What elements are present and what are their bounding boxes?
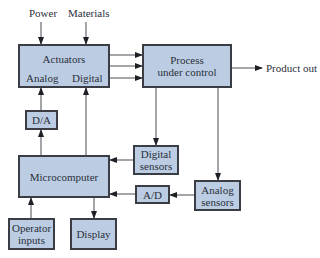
digital-sensors-line1: Digital — [141, 148, 172, 160]
actuators-digital-label: Digital — [72, 72, 103, 84]
actuators-box: Actuators Analog Digital — [18, 44, 110, 88]
analog-sensors-line1: Analog — [201, 184, 233, 196]
operator-inputs-line1: Operator — [12, 222, 51, 234]
process-box: Process under control — [142, 44, 232, 88]
display-box: Display — [70, 218, 117, 250]
actuators-title: Actuators — [20, 53, 108, 65]
operator-inputs-box: Operator inputs — [8, 218, 55, 250]
product-out-label: Product out — [266, 62, 317, 74]
process-line1: Process — [170, 54, 204, 66]
power-label: Power — [29, 7, 57, 19]
ad-converter-box: A/D — [135, 185, 170, 204]
microcomputer-label: Microcomputer — [30, 171, 98, 183]
microcomputer-box: Microcomputer — [18, 155, 110, 198]
da-label: D/A — [32, 114, 51, 126]
process-line2: under control — [158, 66, 217, 78]
digital-sensors-box: Digital sensors — [133, 145, 179, 175]
materials-label: Materials — [68, 7, 110, 19]
actuators-analog-label: Analog — [26, 72, 58, 84]
analog-sensors-line2: sensors — [201, 196, 233, 208]
digital-sensors-line2: sensors — [140, 160, 172, 172]
display-label: Display — [76, 228, 110, 240]
operator-inputs-line2: inputs — [18, 234, 45, 246]
ad-label: A/D — [143, 189, 162, 201]
da-converter-box: D/A — [25, 110, 58, 130]
analog-sensors-box: Analog sensors — [194, 180, 241, 211]
